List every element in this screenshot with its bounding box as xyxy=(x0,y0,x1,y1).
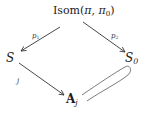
node-aj-label: A xyxy=(66,92,75,106)
loop-edge xyxy=(82,66,131,101)
label-j-text: j xyxy=(17,77,19,85)
label-p1-sub: 1 xyxy=(36,35,39,40)
node-s0-sub: 0 xyxy=(133,57,138,66)
label-p2-sub: 2 xyxy=(115,35,118,40)
node-s-label: S xyxy=(6,51,14,65)
label-p1: p1 xyxy=(32,33,39,40)
node-aj-sub: j xyxy=(75,98,77,107)
node-s0: S0 xyxy=(125,52,138,64)
node-s0-label: S xyxy=(125,51,133,65)
label-p2: p2 xyxy=(111,33,118,40)
node-aj: Aj xyxy=(66,93,78,105)
node-s: S xyxy=(6,52,14,64)
isom-arg2: π xyxy=(99,4,106,17)
arrow-p1 xyxy=(21,27,60,51)
isom-prefix: Isom( xyxy=(53,4,84,17)
node-isom: Isom(π, π0) xyxy=(53,5,115,16)
arrow-j xyxy=(19,63,64,95)
isom-arg1: π xyxy=(84,4,91,17)
label-j: j xyxy=(17,78,19,85)
arrow-p2 xyxy=(83,22,125,52)
isom-sep: , xyxy=(92,4,99,17)
isom-suffix: ) xyxy=(110,4,114,17)
